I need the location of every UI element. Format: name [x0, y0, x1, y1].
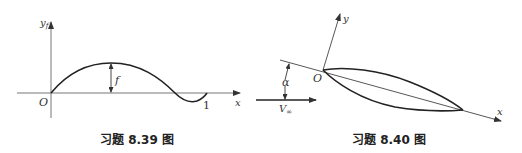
angle-label: α [282, 76, 290, 89]
caption-fig-8-40: 习题 8.40 图 [352, 130, 426, 147]
y-axis-label: y [342, 13, 349, 24]
y-axis [323, 14, 340, 70]
figure-8-39: yf O f 1 x [17, 17, 241, 118]
diagram-canvas: yf O f 1 x y O α V∞ x [0, 0, 522, 153]
caption-fig-8-39: 习题 8.39 图 [100, 130, 174, 147]
x-axis-label: x [497, 106, 503, 117]
figure-8-40: y O α V∞ x [256, 13, 503, 121]
origin-label: O [39, 96, 48, 109]
origin-label: O [313, 72, 322, 85]
end-tick-label: 1 [203, 99, 210, 112]
camber-curve [51, 63, 207, 102]
airfoil-upper [323, 69, 463, 111]
chord-x-axis [280, 60, 501, 121]
x-axis-label: x [235, 97, 241, 108]
y-axis-label: yf [39, 17, 50, 30]
velocity-label: V∞ [279, 103, 292, 116]
camber-label: f [114, 74, 121, 87]
